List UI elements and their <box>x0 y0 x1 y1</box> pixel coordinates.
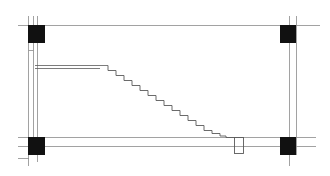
stair-steps <box>108 66 234 138</box>
plan-svg <box>0 0 330 176</box>
column-top-right <box>280 25 296 43</box>
column-top-left <box>28 25 45 43</box>
columns <box>28 25 296 155</box>
stair-plan-drawing <box>0 0 330 176</box>
stair-landing <box>35 66 108 69</box>
column-bottom-right <box>280 137 296 155</box>
column-bottom-left <box>28 137 45 155</box>
wall-lines <box>18 16 320 166</box>
stair-newel-post <box>235 138 244 154</box>
